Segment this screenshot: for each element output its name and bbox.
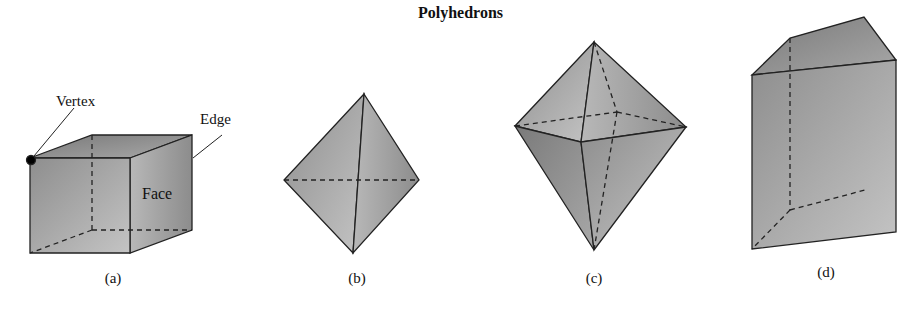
vertex-dot [27, 156, 36, 165]
caption-b: (b) [348, 270, 366, 287]
figure-d-prism [752, 17, 896, 249]
vertex-label: Vertex [56, 93, 96, 109]
figure-a-cube [27, 108, 223, 253]
caption-d: (d) [817, 264, 835, 281]
polyhedrons-diagram: Vertex Edge Face (a) (b) (c) (d) [0, 0, 921, 310]
edge-label: Edge [200, 111, 231, 127]
figure-c-octahedron [515, 42, 686, 250]
caption-a: (a) [105, 270, 122, 287]
figure-b-tetrahedron [284, 94, 419, 253]
face-label: Face [142, 185, 172, 202]
caption-c: (c) [586, 270, 603, 287]
